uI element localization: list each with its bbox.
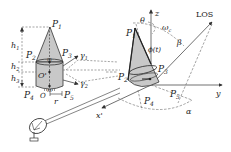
svg-text:P5: P5	[63, 90, 74, 101]
svg-text:P3: P3	[61, 48, 72, 59]
svg-text:r: r	[54, 97, 59, 106]
svg-text:ϕ(t): ϕ(t)	[148, 46, 161, 54]
svg-text:P2: P2	[117, 72, 128, 83]
svg-text:P2: P2	[25, 50, 36, 61]
svg-text:γ2: γ2	[80, 79, 88, 89]
svg-text:γ1: γ1	[80, 51, 88, 61]
right-tilted-target: z LOS θ ωc β ϕ(t) P1 P3 P2 P4 P5 y x' α	[96, 9, 222, 120]
left-cone-cylinder-target: P1 P2 P3 P4 P5 h1 h2 h3 r O' O m m γ1 γ2	[11, 19, 120, 106]
svg-text:z: z	[154, 9, 160, 18]
svg-text:x': x'	[96, 111, 103, 120]
svg-text:y: y	[215, 89, 221, 98]
svg-text:O': O'	[38, 71, 47, 80]
svg-text:P1: P1	[51, 19, 62, 30]
svg-text:m: m	[47, 87, 52, 93]
svg-text:P4: P4	[23, 90, 34, 101]
svg-text:P3: P3	[157, 64, 168, 75]
svg-text:O: O	[40, 92, 46, 100]
svg-text:θ: θ	[140, 16, 145, 25]
svg-text:LOS: LOS	[196, 10, 213, 19]
svg-text:ωc: ωc	[162, 23, 172, 33]
svg-text:P5: P5	[169, 89, 180, 100]
svg-text:m: m	[47, 56, 52, 62]
svg-text:h3: h3	[11, 74, 19, 84]
svg-text:β: β	[176, 38, 182, 47]
svg-text:α: α	[186, 107, 192, 116]
radar-target-geometry-diagram: P1 P2 P3 P4 P5 h1 h2 h3 r O' O m m γ1 γ2	[0, 0, 231, 152]
svg-text:P4: P4	[143, 96, 154, 107]
svg-text:h1: h1	[11, 41, 19, 51]
svg-text:h2: h2	[11, 62, 19, 72]
